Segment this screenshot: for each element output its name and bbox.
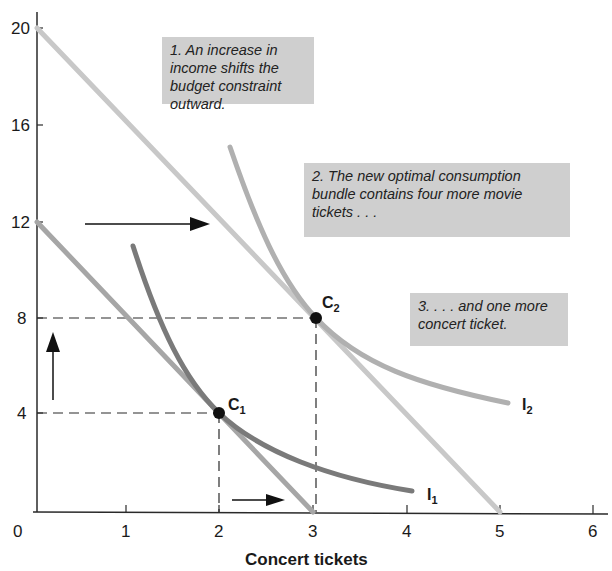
y-tick-label-4: 4 <box>17 404 26 423</box>
up-arrow <box>46 332 60 400</box>
x-tick-label-5: 5 <box>495 522 504 541</box>
x-axis-title: Concert tickets <box>245 550 368 569</box>
right-arrow-upper <box>85 217 210 231</box>
x-tick-label-3: 3 <box>308 522 317 541</box>
point-c1 <box>213 407 225 419</box>
y-tick-label-12: 12 <box>11 213 30 232</box>
x-tick-label-6: 6 <box>588 522 597 541</box>
x-tick-label-0: 0 <box>13 522 22 541</box>
annotation-note-3: 3. . . . and one more concert ticket. <box>410 293 568 346</box>
x-axis <box>33 512 608 514</box>
y-tick-label-20: 20 <box>11 19 30 38</box>
annotation-note-1: 1. An increase in income shifts the budg… <box>162 37 314 104</box>
label-c2: C2 <box>322 294 340 314</box>
guide-lines <box>37 318 316 512</box>
x-tick-label-4: 4 <box>402 522 411 541</box>
annotation-note-2: 2. The new optimal consumption bundle co… <box>304 163 570 237</box>
y-tick-label-16: 16 <box>11 116 30 135</box>
original-budget-constraint <box>37 222 313 512</box>
x-tick-label-1: 1 <box>121 522 130 541</box>
right-arrow-lower <box>232 494 285 506</box>
label-i2: I2 <box>522 396 533 416</box>
x-tick-label-2: 2 <box>214 522 223 541</box>
y-tick-label-8: 8 <box>17 309 26 328</box>
point-c2 <box>310 312 322 324</box>
label-c1: C1 <box>228 396 246 416</box>
label-i1: I1 <box>427 486 438 506</box>
